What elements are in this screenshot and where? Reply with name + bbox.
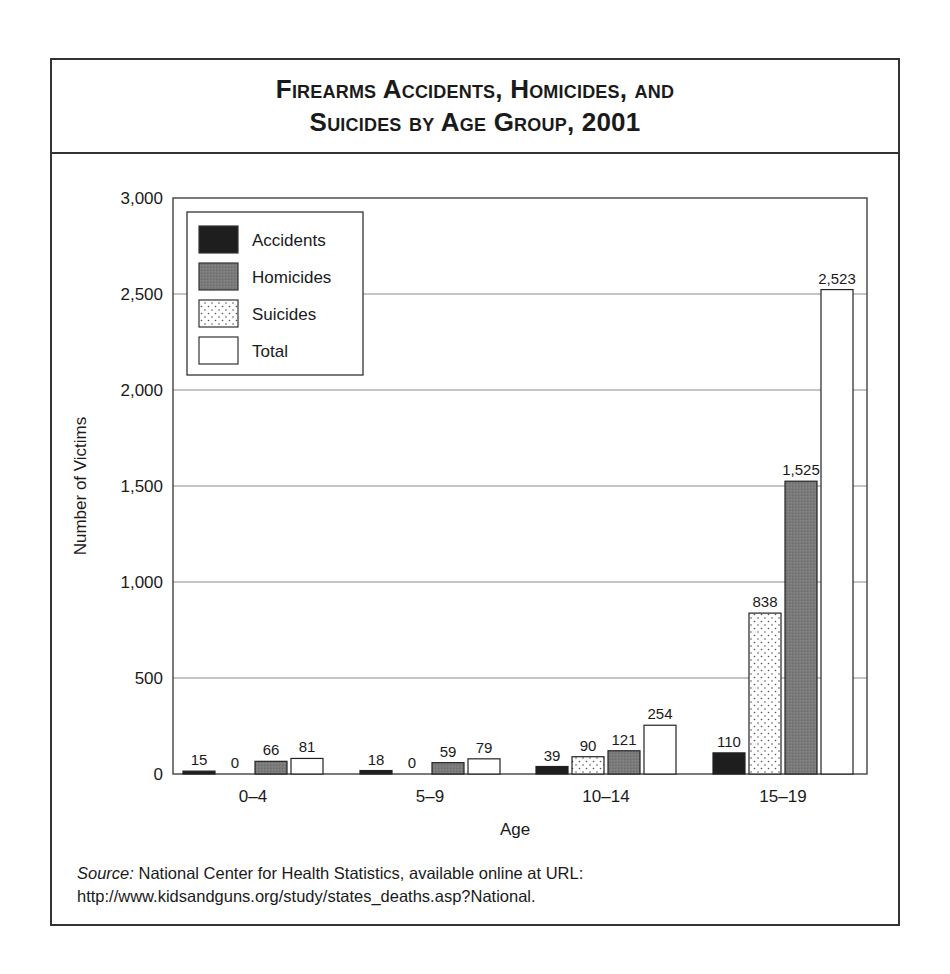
x-tick-label: 5–9: [416, 787, 444, 806]
value-label: 121: [611, 731, 636, 748]
legend: AccidentsHomicidesSuicidesTotal: [187, 212, 363, 375]
value-label: 66: [263, 741, 280, 758]
bar-chart: 05001,0001,5002,0002,5003,000Number of V…: [0, 0, 950, 974]
value-label: 838: [752, 593, 777, 610]
x-tick-label: 10–14: [582, 787, 629, 806]
x-tick-label: 15–19: [759, 787, 806, 806]
y-tick-label: 2,500: [120, 285, 163, 304]
value-label: 2,523: [818, 270, 856, 287]
y-axis-label: Number of Victims: [71, 417, 90, 556]
value-label: 90: [580, 737, 597, 754]
bar-accidents: [713, 753, 745, 774]
bar-homicides: [255, 761, 287, 774]
bar-accidents: [360, 771, 392, 774]
y-tick-label: 3,000: [120, 189, 163, 208]
value-label: 81: [299, 738, 316, 755]
bar-homicides: [785, 481, 817, 774]
bar-total: [821, 290, 853, 774]
bar-accidents: [536, 767, 568, 774]
legend-swatch-homicides: [199, 263, 238, 290]
y-axis: 05001,0001,5002,0002,5003,000Number of V…: [71, 189, 163, 784]
bar-accidents: [183, 771, 215, 774]
legend-label-suicides: Suicides: [252, 305, 316, 324]
legend-swatch-suicides: [199, 300, 238, 327]
legend-label-homicides: Homicides: [252, 268, 331, 287]
value-label: 254: [647, 705, 672, 722]
y-tick-label: 1,500: [120, 477, 163, 496]
bar-suicides: [572, 757, 604, 774]
bar-suicides: [749, 613, 781, 774]
value-label: 15: [191, 751, 208, 768]
x-axis-label: Age: [500, 820, 530, 839]
y-tick-label: 2,000: [120, 381, 163, 400]
bar-total: [291, 758, 323, 774]
bar-total: [468, 759, 500, 774]
legend-label-accidents: Accidents: [252, 231, 326, 250]
y-tick-label: 1,000: [120, 573, 163, 592]
bar-total: [644, 725, 676, 774]
legend-label-total: Total: [252, 342, 288, 361]
legend-swatch-total: [199, 337, 238, 364]
value-label: 110: [717, 733, 741, 750]
value-label: 0: [408, 754, 416, 771]
y-tick-label: 500: [135, 669, 163, 688]
value-label: 0: [231, 754, 239, 771]
value-label: 18: [368, 751, 385, 768]
value-label: 79: [476, 739, 493, 756]
legend-swatch-accidents: [199, 226, 238, 253]
value-label: 59: [440, 743, 457, 760]
value-label: 39: [544, 747, 561, 764]
bar-homicides: [608, 751, 640, 774]
x-tick-label: 0–4: [239, 787, 267, 806]
y-tick-label: 0: [154, 765, 163, 784]
value-label: 1,525: [782, 461, 820, 478]
x-axis: 0–45–910–1415–19Age: [239, 787, 807, 839]
bar-homicides: [432, 763, 464, 774]
